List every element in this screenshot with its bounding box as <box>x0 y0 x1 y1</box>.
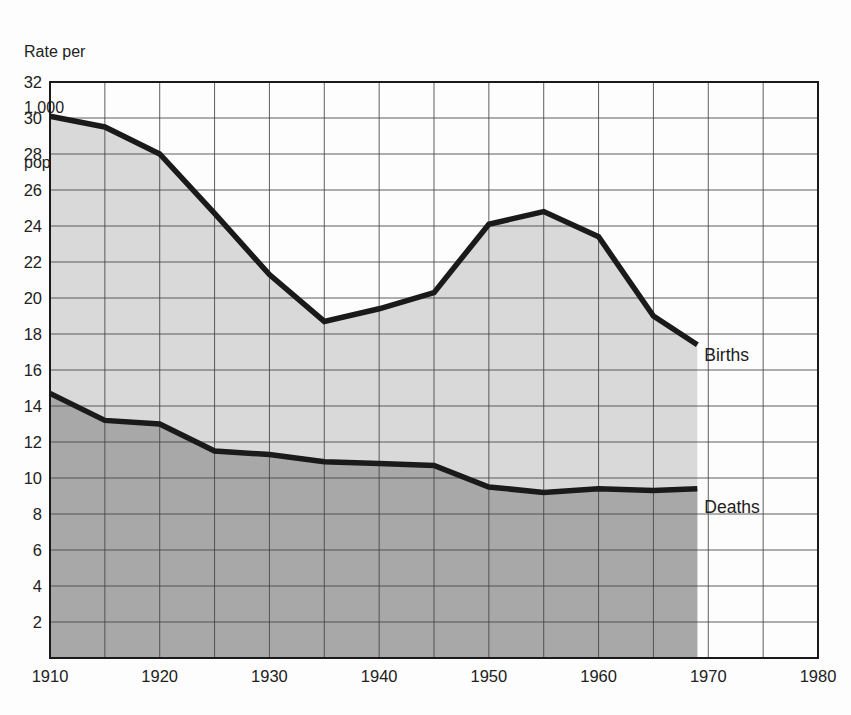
y-tick-label: 18 <box>24 325 42 343</box>
area-chart: 2468101214161820222426283032191019201930… <box>0 0 851 715</box>
y-tick-label: 6 <box>33 541 42 559</box>
x-tick-label: 1950 <box>470 667 507 685</box>
x-tick-label: 1930 <box>251 667 288 685</box>
births-series-label: Births <box>704 345 749 365</box>
y-tick-label: 12 <box>24 433 42 451</box>
x-tick-label: 1920 <box>141 667 178 685</box>
x-tick-label: 1970 <box>690 667 727 685</box>
x-tick-label: 1940 <box>361 667 398 685</box>
y-tick-label: 2 <box>33 613 42 631</box>
y-tick-label: 24 <box>24 217 42 235</box>
x-tick-label: 1980 <box>800 667 837 685</box>
y-tick-label: 26 <box>24 181 42 199</box>
x-tick-label: 1960 <box>580 667 617 685</box>
y-tick-label: 8 <box>33 505 42 523</box>
y-tick-label: 10 <box>24 469 42 487</box>
y-tick-label: 30 <box>24 109 42 127</box>
y-tick-label: 22 <box>24 253 42 271</box>
y-tick-label: 16 <box>24 361 42 379</box>
y-tick-label: 20 <box>24 289 42 307</box>
deaths-series-label: Deaths <box>704 497 760 517</box>
y-tick-label: 4 <box>33 577 42 595</box>
y-tick-label: 32 <box>24 73 42 91</box>
scanned-chart-page: Rate per 1,000 population 24681012141618… <box>0 0 851 715</box>
y-tick-label: 14 <box>24 397 42 415</box>
y-tick-label: 28 <box>24 145 42 163</box>
x-tick-label: 1910 <box>32 667 69 685</box>
